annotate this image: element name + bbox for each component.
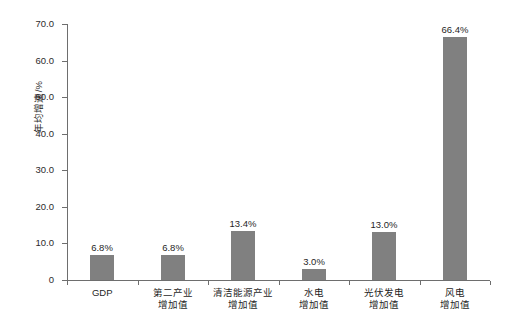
y-axis-tick-label: 50.0 — [36, 91, 55, 102]
y-axis-line — [67, 24, 68, 281]
category-label-line2: 增加值 — [138, 299, 209, 311]
y-axis-tick-label: 0 — [49, 274, 54, 285]
bar: 13.4% — [231, 231, 255, 280]
x-axis-category-label: 清洁能源产业增加值 — [208, 287, 279, 311]
category-label-line1: GDP — [92, 287, 113, 298]
category-label-line1: 水电 — [304, 287, 324, 298]
bar: 3.0% — [302, 269, 326, 280]
x-axis-tick — [420, 281, 421, 285]
x-axis-tick — [138, 281, 139, 285]
bar: 6.8% — [90, 255, 114, 280]
bar: 6.8% — [161, 255, 185, 280]
y-axis-tick: 30.0 — [62, 170, 67, 171]
x-axis-tick — [349, 281, 350, 285]
y-axis-tick-label: 40.0 — [36, 128, 55, 139]
y-axis-tick-label: 10.0 — [36, 237, 55, 248]
category-label-line2: 增加值 — [420, 299, 491, 311]
bar-value-label: 3.0% — [303, 256, 325, 267]
x-axis-tick — [490, 281, 491, 285]
plot-area: 70.060.050.040.030.020.010.00 6.8%6.8%13… — [67, 24, 490, 281]
bar: 13.0% — [372, 232, 396, 280]
x-axis-tick — [208, 281, 209, 285]
bar-value-label: 66.4% — [442, 24, 469, 35]
x-axis-tick — [279, 281, 280, 285]
x-axis-category-label: 风电增加值 — [420, 287, 491, 311]
y-axis-tick: 20.0 — [62, 207, 67, 208]
category-label-line2: 增加值 — [349, 299, 420, 311]
y-axis-tick-label: 70.0 — [36, 18, 55, 29]
category-label-line1: 第二产业 — [153, 287, 193, 298]
x-axis-category-label: 光伏发电增加值 — [349, 287, 420, 311]
y-axis-tick-label: 60.0 — [36, 55, 55, 66]
y-axis-tick: 50.0 — [62, 97, 67, 98]
y-axis-tick-label: 20.0 — [36, 201, 55, 212]
y-axis-tick: 40.0 — [62, 134, 67, 135]
category-label-line1: 清洁能源产业 — [213, 287, 273, 298]
x-axis-tick — [67, 281, 68, 285]
category-label-line1: 光伏发电 — [364, 287, 404, 298]
category-label-line1: 风电 — [445, 287, 465, 298]
bar-chart: 年均增速/% 70.060.050.040.030.020.010.00 6.8… — [0, 0, 505, 329]
bar-value-label: 6.8% — [91, 242, 113, 253]
bar-value-label: 13.4% — [230, 218, 257, 229]
bar-value-label: 6.8% — [162, 242, 184, 253]
y-axis-tick: 70.0 — [62, 24, 67, 25]
x-axis-category-label: GDP — [67, 287, 138, 299]
x-axis-category-label: 第二产业增加值 — [138, 287, 209, 311]
bar-value-label: 13.0% — [371, 219, 398, 230]
y-axis-tick: 60.0 — [62, 61, 67, 62]
category-label-line2: 增加值 — [279, 299, 350, 311]
x-axis-category-label: 水电增加值 — [279, 287, 350, 311]
y-axis-tick-label: 30.0 — [36, 164, 55, 175]
bar: 66.4% — [443, 37, 467, 280]
y-axis-tick: 10.0 — [62, 243, 67, 244]
category-label-line2: 增加值 — [208, 299, 279, 311]
